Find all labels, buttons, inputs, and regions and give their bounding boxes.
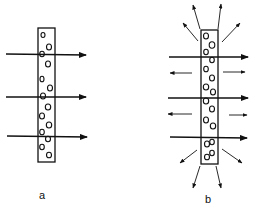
- diagram: a b: [0, 0, 255, 209]
- diagram-figure: [0, 0, 255, 209]
- panel-b-label: b: [205, 193, 211, 205]
- panel-a: [6, 28, 87, 162]
- panel-b: [168, 4, 248, 188]
- panel-a-label: a: [39, 189, 45, 201]
